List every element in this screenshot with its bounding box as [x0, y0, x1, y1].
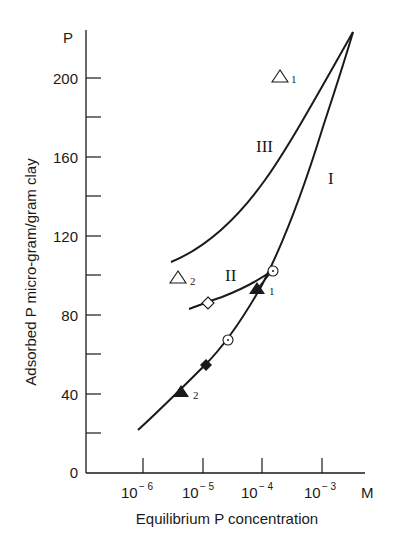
svg-text:2: 2 [190, 275, 196, 287]
curve-label-III: III [256, 137, 273, 156]
curve-I [138, 32, 353, 430]
x-axis-unit: M [361, 484, 374, 501]
svg-text:10: 10 [121, 484, 138, 501]
y-axis-title: Adsorbed P micro-gram/gram clay [22, 158, 39, 386]
dotted-circle-marker-upper [268, 266, 278, 276]
y-tick-200: 200 [53, 70, 78, 87]
y-axis-unit: P [63, 29, 73, 46]
y-tick-0: 0 [70, 464, 78, 481]
y-major-ticks [86, 78, 101, 394]
svg-text:10: 10 [241, 484, 258, 501]
x-tick-1e-5: 10 − 5 [182, 481, 215, 501]
svg-text:1: 1 [269, 285, 275, 297]
x-tick-1e-4: 10 − 4 [241, 481, 274, 501]
dotted-circle-marker-lower [223, 335, 233, 345]
svg-text:− 6: − 6 [139, 481, 154, 492]
filled-triangle-marker-2: 2 [173, 385, 199, 401]
x-axis-title: Equilibrium P concentration [136, 510, 318, 527]
open-triangle-marker-1: 1 [272, 70, 297, 85]
svg-text:10: 10 [182, 484, 199, 501]
svg-text:1: 1 [291, 73, 297, 85]
svg-text:10: 10 [304, 484, 321, 501]
y-tick-80: 80 [61, 307, 78, 324]
y-tick-120: 120 [53, 228, 78, 245]
y-tick-40: 40 [61, 386, 78, 403]
curve-label-I: I [328, 169, 334, 188]
open-triangle-marker-2: 2 [170, 271, 196, 287]
x-tick-1e-3: 10 − 3 [304, 481, 337, 501]
svg-text:2: 2 [193, 389, 199, 401]
svg-text:− 4: − 4 [259, 481, 274, 492]
svg-text:− 3: − 3 [322, 481, 337, 492]
y-tick-160: 160 [53, 149, 78, 166]
adsorption-chart: P 200 160 120 80 40 0 Adsorbed P micro-g… [0, 0, 399, 542]
x-ticks [143, 458, 322, 473]
y-minor-ticks [86, 117, 101, 433]
x-tick-1e-6: 10 − 6 [121, 481, 154, 501]
curve-label-II: II [225, 266, 237, 285]
svg-text:− 5: − 5 [200, 481, 215, 492]
open-diamond-marker [202, 297, 214, 309]
